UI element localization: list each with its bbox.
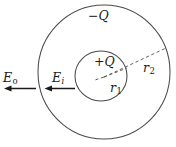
- inner-charge-label: +Q: [94, 56, 115, 69]
- r1-subscript: 1: [116, 86, 122, 96]
- outer-charge-text: −Q: [88, 8, 109, 23]
- physics-figure: −Q +Q Eo Ei r2 r1: [0, 0, 176, 147]
- e-inner-symbol: E: [52, 70, 61, 85]
- radius-label-r2: r2: [143, 62, 155, 76]
- inner-charge-text: +Q: [94, 54, 115, 69]
- e-inner-label: Ei: [52, 72, 64, 86]
- radius-line-r1: [104, 68, 127, 77]
- e-outer-label: Eo: [3, 72, 18, 86]
- e-outer-subscript: o: [12, 76, 18, 86]
- outer-charge-label: −Q: [88, 10, 109, 23]
- e-outer-symbol: E: [3, 70, 12, 85]
- e-outer-arrow: [4, 86, 36, 92]
- e-inner-subscript: i: [61, 76, 64, 86]
- radius-label-r1: r1: [110, 82, 122, 96]
- e-inner-arrow: [45, 86, 76, 92]
- r2-subscript: 2: [149, 66, 155, 76]
- radius-line-r1-extension: [95, 77, 104, 80]
